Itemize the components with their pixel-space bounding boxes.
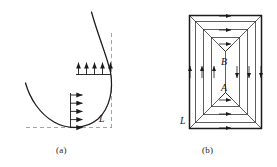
caption-panel-b: (b) bbox=[202, 145, 213, 155]
horizontal-load-arrows bbox=[71, 93, 83, 128]
right-vertical-arrows bbox=[237, 66, 261, 78]
vertical-load-arrows bbox=[76, 63, 111, 75]
panel-b: B A L bbox=[179, 16, 262, 129]
chevron-lower bbox=[220, 93, 232, 99]
panel-a: L bbox=[26, 12, 113, 128]
medial-axis bbox=[190, 16, 262, 129]
caption-panel-a: (a) bbox=[56, 145, 67, 155]
top-horizontal-arrows bbox=[219, 16, 231, 44]
arc-curve bbox=[26, 12, 112, 127]
chevron-upper bbox=[220, 46, 232, 52]
panel-b-label-A: A bbox=[220, 82, 228, 93]
panel-b-label-L: L bbox=[179, 115, 186, 126]
left-vertical-arrows bbox=[190, 66, 214, 78]
figure-canvas: L bbox=[0, 0, 277, 167]
bottom-horizontal-arrows bbox=[219, 100, 231, 128]
panel-b-label-B: B bbox=[221, 56, 227, 67]
panel-a-label-L: L bbox=[98, 113, 105, 124]
